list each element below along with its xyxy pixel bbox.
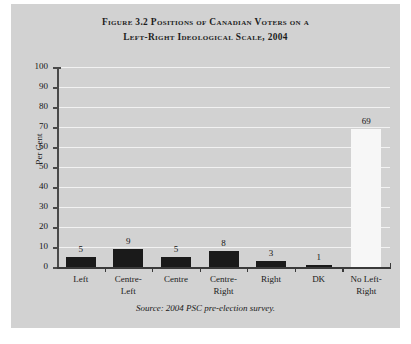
y-axis-tick-label: 20	[18, 221, 48, 231]
bar-value-label: 9	[108, 236, 148, 246]
y-axis-tick-label: 30	[18, 201, 48, 211]
y-axis-tick-label: 80	[18, 101, 48, 111]
y-axis-tick-label: 70	[18, 121, 48, 131]
y-axis-top-cap	[57, 67, 61, 69]
x-axis-line	[57, 267, 391, 269]
x-axis-tick	[105, 267, 106, 272]
source-note: Source: 2004 PSC pre-election survey.	[11, 303, 400, 313]
bar-value-label: 5	[61, 244, 101, 254]
y-axis-tick-label: 60	[18, 141, 48, 151]
x-axis-tick	[200, 267, 201, 272]
x-axis-end-cap	[390, 263, 392, 268]
bar[interactable]	[161, 257, 191, 267]
y-axis-tick-label: 90	[18, 81, 48, 91]
gridline	[57, 107, 390, 108]
y-axis-tick-label: 40	[18, 181, 48, 191]
x-axis-tick-label-line: Right	[247, 274, 295, 286]
x-axis-tick-label: Right	[247, 274, 295, 286]
x-axis-tick-label-line: Left	[105, 286, 153, 298]
figure-title: Figure 3.2 Positions of Canadian Voters …	[11, 15, 400, 44]
figure-title-line-2: Left-Right Ideological Scale, 2004	[11, 30, 400, 45]
bar[interactable]	[66, 257, 96, 267]
x-axis-tick-label-line: Centre-	[105, 274, 153, 286]
bar-value-label: 5	[156, 244, 196, 254]
x-axis-tick	[152, 267, 153, 272]
gridline	[57, 87, 390, 88]
x-axis-tick-label-line: No Left-	[342, 274, 390, 286]
y-axis-tick-label: 10	[18, 241, 48, 251]
gridline	[57, 227, 390, 228]
bar[interactable]	[351, 129, 381, 267]
x-axis-tick-label-line: Centre-	[200, 274, 248, 286]
x-axis-tick-label: Centre-Left	[105, 274, 153, 297]
x-axis-tick-label-line: Right	[200, 286, 248, 298]
figure-container: Figure 3.2 Positions of Canadian Voters …	[11, 4, 400, 328]
bar[interactable]	[113, 249, 143, 267]
bar-value-label: 69	[346, 116, 386, 126]
plot-area	[57, 67, 390, 267]
x-axis-tick-label-line: DK	[295, 274, 343, 286]
x-axis-tick-label-line: Right	[342, 286, 390, 298]
x-axis-tick-label: Left	[57, 274, 105, 286]
x-axis-tick-label: DK	[295, 274, 343, 286]
x-axis-tick-label-line: Left	[57, 274, 105, 286]
gridline	[57, 207, 390, 208]
x-axis-tick-label: Centre-Right	[200, 274, 248, 297]
x-axis-tick	[342, 267, 343, 272]
x-axis-tick	[295, 267, 296, 272]
bar-value-label: 1	[299, 252, 339, 262]
y-axis-tick-label: 0	[18, 261, 48, 271]
bar-value-label: 8	[204, 238, 244, 248]
gridline	[57, 147, 390, 148]
gridline	[57, 127, 390, 128]
y-axis-tick-label: 50	[18, 161, 48, 171]
figure-title-line-1: Figure 3.2 Positions of Canadian Voters …	[11, 15, 400, 30]
bar[interactable]	[209, 251, 239, 267]
x-axis-tick-label-line: Centre	[152, 274, 200, 286]
y-axis-tick-label: 100	[18, 61, 48, 71]
x-axis-tick	[247, 267, 248, 272]
x-axis-tick-label: No Left-Right	[342, 274, 390, 297]
gridline	[57, 167, 390, 168]
bar-value-label: 3	[251, 248, 291, 258]
gridline	[57, 67, 390, 68]
gridline	[57, 187, 390, 188]
y-axis-line	[57, 67, 59, 268]
x-axis-tick-label: Centre	[152, 274, 200, 286]
